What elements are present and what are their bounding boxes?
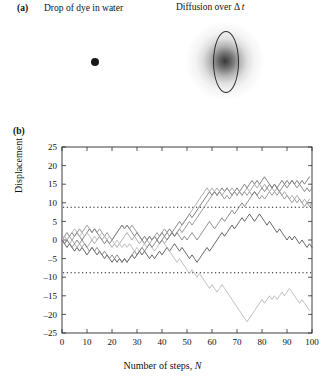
x-tick-label: 0	[60, 337, 65, 347]
y-tick-label: 10	[48, 198, 58, 208]
y-axis-label: Displacement	[13, 116, 24, 216]
x-tick-label: 100	[305, 337, 319, 347]
x-tick-label: 60	[208, 337, 218, 347]
x-tick-labels: 0102030405060708090100	[60, 337, 320, 347]
diffusion-ellipse-outline-icon	[213, 31, 239, 93]
x-tick-label: 20	[108, 337, 118, 347]
x-tick-label: 10	[83, 337, 93, 347]
panel-a-label: (a)	[17, 3, 28, 13]
walk-trace-walk-3	[62, 214, 312, 262]
x-tick-label: 40	[158, 337, 168, 347]
x-tick-label: 50	[183, 337, 193, 347]
x-tick-label: 80	[258, 337, 268, 347]
y-tick-label: –10	[43, 272, 58, 282]
y-tick-label: –25	[43, 328, 58, 338]
panel-a-left-title: Drop of dye in water	[44, 3, 123, 13]
x-tick-label: 90	[283, 337, 293, 347]
walk-series-group	[62, 177, 312, 322]
y-tick-label: –15	[43, 291, 58, 301]
walk-trace-walk-6	[62, 180, 312, 262]
time-variable: t	[242, 2, 245, 12]
x-axis-label: Number of steps, N	[0, 360, 325, 371]
y-tick-label: 0	[53, 235, 58, 245]
delta-symbol: Δ	[234, 2, 240, 12]
panel-a-right-title: Diffusion over Δ t	[176, 2, 244, 12]
y-tick-label: –5	[47, 254, 58, 264]
y-tick-label: 25	[48, 142, 58, 152]
y-tick-label: 20	[48, 161, 58, 171]
y-tick-label: –20	[43, 310, 58, 320]
random-walk-chart: –25–20–15–10–50510152025 010203040506070…	[0, 128, 325, 380]
x-axis-label-variable: N	[195, 360, 202, 371]
y-tick-label: 15	[48, 179, 58, 189]
chart-svg: –25–20–15–10–50510152025 010203040506070…	[0, 128, 325, 380]
y-tick-labels: –25–20–15–10–50510152025	[43, 142, 58, 338]
x-tick-label: 70	[233, 337, 243, 347]
y-tick-label: 5	[53, 217, 58, 227]
x-axis-label-prefix: Number of steps,	[124, 360, 195, 371]
diffusion-title-prefix: Diffusion over	[176, 2, 234, 12]
dye-drop-dot-icon	[91, 58, 99, 66]
walk-trace-walk-5	[62, 229, 310, 322]
x-tick-label: 30	[133, 337, 143, 347]
